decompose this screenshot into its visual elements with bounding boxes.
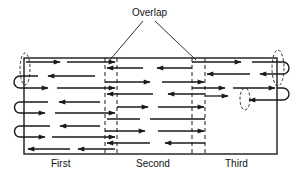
section-label-third: Third xyxy=(225,159,248,169)
overlap-label: Overlap xyxy=(132,8,167,18)
overlap-diagram xyxy=(0,0,299,178)
section-label-second: Second xyxy=(136,159,170,169)
right-turn-loops xyxy=(277,62,289,100)
first-pass-arrows xyxy=(26,62,115,149)
section-label-first: First xyxy=(51,159,70,169)
work-area-frame xyxy=(24,58,277,154)
overlap-zone-1 xyxy=(105,58,117,154)
end-ellipse-right xyxy=(240,88,250,110)
overlap-zone-2 xyxy=(192,58,205,154)
second-pass-arrows xyxy=(105,68,205,143)
turn-ellipse-right xyxy=(272,50,284,86)
overlap-callout-lines xyxy=(109,21,196,61)
